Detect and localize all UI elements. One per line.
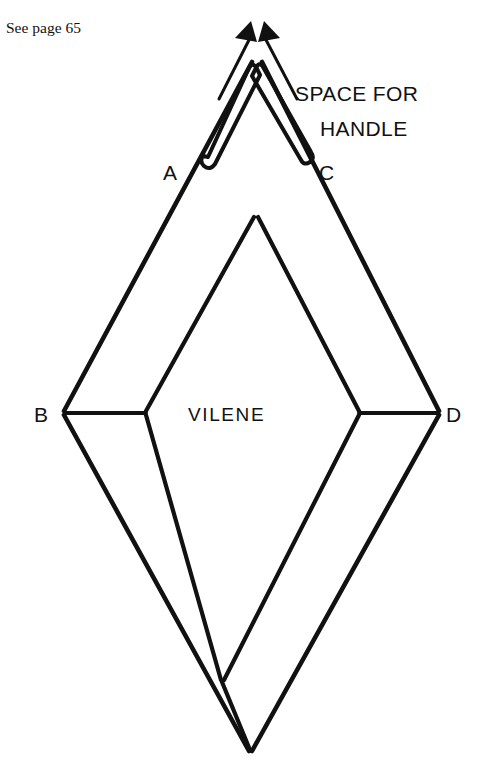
vertex-label-d: D bbox=[446, 403, 461, 426]
vertex-label-c: C bbox=[319, 161, 334, 184]
arrow-right-shaft bbox=[265, 38, 297, 99]
inner-edge-top-left bbox=[146, 217, 254, 411]
arrow-up-right-icon bbox=[258, 21, 280, 42]
cross-reference-note: See page 65 bbox=[6, 19, 81, 36]
inner-edge-bottom-left bbox=[146, 415, 221, 680]
inner-edge-bottom-right bbox=[224, 415, 359, 680]
kite-diagram-svg: See page 65 SPACE FOR HANDLE A C B D VIL… bbox=[0, 0, 484, 781]
vertex-label-a: A bbox=[163, 161, 177, 184]
inner-edge-top-right bbox=[258, 217, 359, 411]
inner-panel-outline bbox=[146, 217, 359, 750]
outer-edge-top-left bbox=[64, 62, 252, 411]
panel-material-label: VILENE bbox=[188, 404, 265, 425]
handle-channel-left-strip bbox=[201, 65, 260, 168]
inner-tail-extension bbox=[222, 682, 250, 750]
vertex-label-b: B bbox=[34, 403, 48, 426]
diagram-root: See page 65 SPACE FOR HANDLE A C B D VIL… bbox=[0, 0, 484, 781]
outer-edge-bottom-left bbox=[64, 415, 249, 751]
outer-edge-bottom-right bbox=[252, 415, 439, 751]
callout-handle: HANDLE bbox=[320, 117, 408, 140]
callout-space-for: SPACE FOR bbox=[295, 82, 418, 105]
handle-channel bbox=[201, 64, 313, 168]
arrow-up-left-icon bbox=[235, 21, 257, 42]
